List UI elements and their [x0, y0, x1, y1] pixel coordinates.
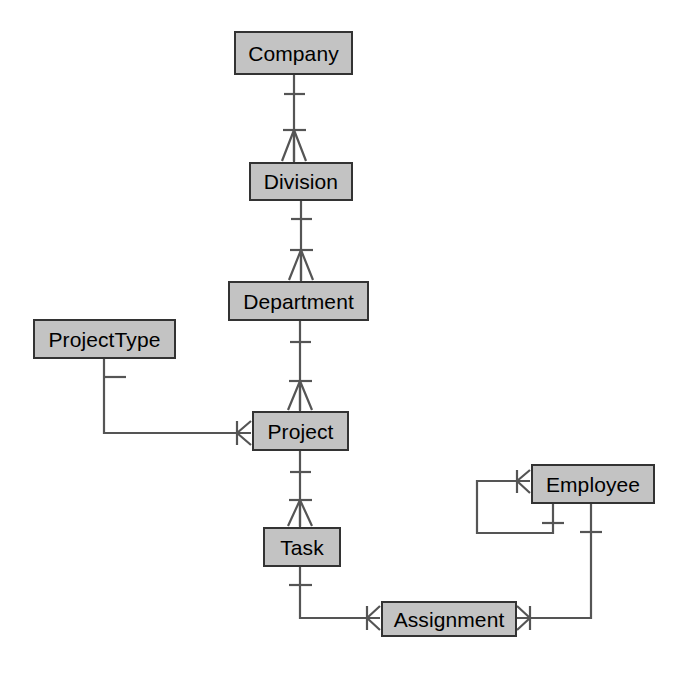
entity-assignment[interactable]: Assignment — [381, 601, 517, 637]
crows-foot — [517, 606, 530, 630]
entity-division[interactable]: Division — [249, 162, 353, 201]
entity-label: Task — [280, 536, 324, 557]
crows-foot — [282, 130, 306, 161]
entity-label: Employee — [546, 473, 640, 494]
entity-project[interactable]: Project — [252, 411, 349, 451]
relationship-projecttype-project — [104, 359, 251, 445]
entity-label: Assignment — [394, 608, 505, 629]
entity-employee[interactable]: Employee — [531, 464, 655, 504]
crows-foot — [289, 250, 313, 280]
relationship-division-department — [289, 201, 313, 281]
entity-company[interactable]: Company — [234, 31, 353, 75]
relationship-task-assignment — [289, 567, 380, 630]
er-diagram-canvas: Company Division Department ProjectType … — [0, 0, 681, 675]
relationship-company-division — [282, 75, 306, 162]
crows-foot — [367, 606, 380, 630]
entity-label: Company — [248, 42, 339, 63]
crows-foot — [288, 381, 312, 410]
entity-department[interactable]: Department — [228, 281, 369, 321]
relationship-department-project — [288, 321, 312, 411]
relationship-project-task — [288, 451, 312, 527]
entity-label: Department — [243, 290, 354, 311]
entity-task[interactable]: Task — [263, 527, 341, 567]
entity-projecttype[interactable]: ProjectType — [33, 319, 176, 359]
entity-label: Project — [267, 420, 333, 441]
crows-foot — [237, 421, 251, 445]
crows-foot — [517, 470, 530, 493]
entity-label: Division — [264, 171, 338, 192]
crows-foot — [288, 500, 312, 526]
entity-label: ProjectType — [49, 328, 161, 349]
